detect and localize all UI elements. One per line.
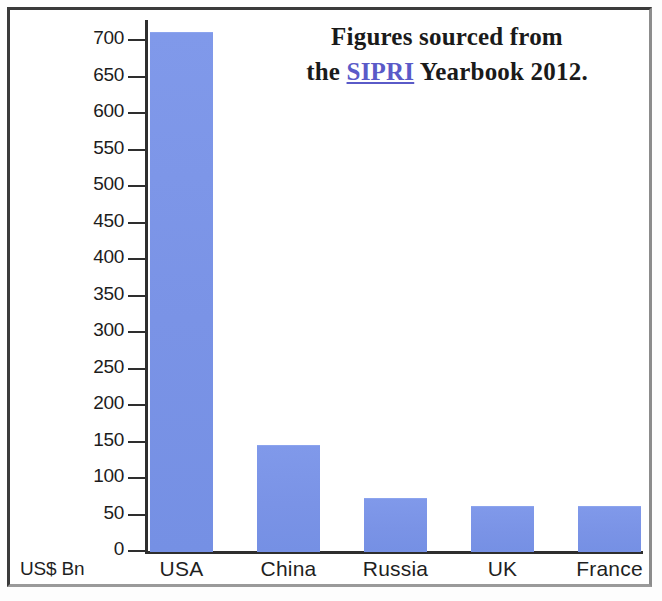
y-axis-tick-label-wrap: 200 [0,405,124,406]
y-axis-tick [128,149,145,151]
y-axis-tick [128,112,145,114]
y-axis-tick [128,185,145,187]
y-axis-tick-label-wrap: 250 [0,369,124,370]
y-axis-tick-label: 650 [46,64,124,86]
y-axis-line [145,20,148,553]
y-axis-tick-label-wrap: 500 [0,186,124,187]
y-axis-tick-label-wrap: 350 [0,296,124,297]
y-axis-tick [128,39,145,41]
y-axis-tick-label: 500 [46,173,124,195]
y-axis-tick-label: 250 [46,356,124,378]
y-axis-tick [128,258,145,260]
annotation-line-2: the SIPRI Yearbook 2012. [252,55,642,90]
y-axis-tick [128,331,145,333]
plot-area: 0501001502002503003504004505005506006507… [0,0,662,601]
x-axis-label-france: France [564,557,655,581]
sipri-link[interactable]: SIPRI [347,58,415,85]
y-axis-tick-label: 300 [46,319,124,341]
y-axis-tick [128,404,145,406]
y-axis-tick-label-wrap: 600 [0,113,124,114]
y-axis-tick-label: 200 [46,392,124,414]
y-axis-tick [128,76,145,78]
y-axis-tick [128,222,145,224]
bar-uk [471,506,534,552]
x-axis-label-russia: Russia [350,557,441,581]
x-axis-label-uk: UK [457,557,548,581]
annotation-line-2-suffix: Yearbook 2012. [414,58,588,85]
y-axis-tick [128,295,145,297]
annotation-line-1: Figures sourced from [252,20,642,55]
y-axis-tick-label-wrap: 50 [0,515,124,516]
y-axis-tick-label: 700 [46,27,124,49]
y-axis-tick-label: 50 [46,502,124,524]
bar-russia [364,498,427,552]
y-axis-tick-label-wrap: 650 [0,77,124,78]
y-axis-tick-label-wrap: 400 [0,259,124,260]
y-axis-tick-label-wrap: 550 [0,150,124,151]
y-axis-tick [128,441,145,443]
y-axis-tick-label: 350 [46,283,124,305]
axis-unit-label: US$ Bn [20,558,84,580]
y-axis-tick-label-wrap: 450 [0,223,124,224]
x-axis-label-usa: USA [136,557,227,581]
y-axis-tick-label: 0 [46,538,124,560]
bar-usa [150,32,213,552]
bar-chart-figure: 0501001502002503003504004505005506006507… [0,0,662,601]
y-axis-tick [128,514,145,516]
y-axis-tick-label-wrap: 700 [0,40,124,41]
y-axis-tick-label-wrap: 300 [0,332,124,333]
y-axis-tick-label-wrap: 0 [0,551,124,552]
y-axis-tick-label-wrap: 100 [0,478,124,479]
y-axis-tick-label: 450 [46,210,124,232]
y-axis-tick-label: 150 [46,429,124,451]
y-axis-tick [128,368,145,370]
y-axis-tick [128,550,145,552]
x-axis-label-china: China [243,557,334,581]
y-axis-tick-label: 100 [46,465,124,487]
y-axis-tick-label-wrap: 150 [0,442,124,443]
source-annotation: Figures sourced from the SIPRI Yearbook … [252,20,642,89]
y-axis-tick-label: 600 [46,100,124,122]
y-axis-tick [128,477,145,479]
bar-china [257,445,320,552]
annotation-line-2-prefix: the [306,58,346,85]
y-axis-tick-label: 400 [46,246,124,268]
bar-france [578,506,641,552]
y-axis-tick-label: 550 [46,137,124,159]
